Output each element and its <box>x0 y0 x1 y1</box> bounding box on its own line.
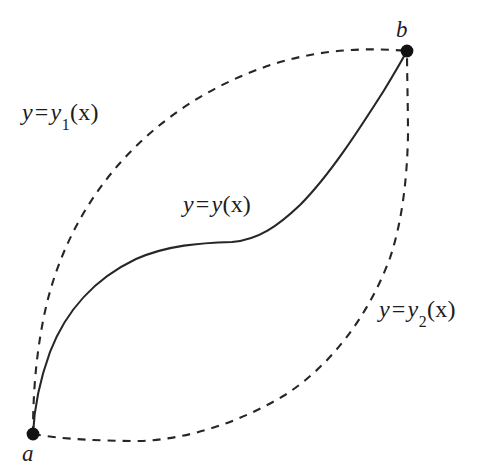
endpoint-dot-b <box>401 45 414 58</box>
label-y2-fn: y <box>408 296 419 322</box>
label-y-lhs: y <box>183 191 194 217</box>
curves-plot <box>0 0 495 476</box>
label-upper-curve: y=y1(x) <box>22 100 99 124</box>
label-endpoint-b: b <box>396 18 408 41</box>
label-y2-subscript: 2 <box>418 313 427 330</box>
figure-canvas: FIGURE 1.1 y=y1(x) y=y(x) y=y2(x) a b <box>0 0 495 476</box>
label-y1-lhs: y <box>22 99 33 125</box>
label-y1-equals: = <box>33 99 51 125</box>
endpoint-dot-a <box>27 428 40 441</box>
label-lower-curve: y=y2(x) <box>379 297 456 321</box>
label-y-arg: (x) <box>222 191 251 217</box>
label-y-fn: y <box>212 191 223 217</box>
label-y-equals: = <box>194 191 212 217</box>
label-y1-arg: (x) <box>70 99 99 125</box>
label-y1-subscript: 1 <box>61 116 70 133</box>
label-y2-arg: (x) <box>427 296 456 322</box>
label-endpoint-a: a <box>22 442 34 465</box>
label-y1-fn: y <box>51 99 62 125</box>
label-middle-curve: y=y(x) <box>183 192 251 216</box>
label-y2-equals: = <box>390 296 408 322</box>
label-y2-lhs: y <box>379 296 390 322</box>
